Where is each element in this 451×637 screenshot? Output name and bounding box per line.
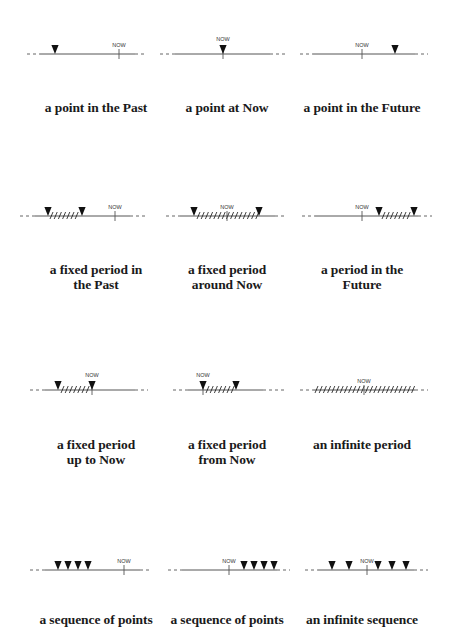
caption-line: from Now [152,452,302,467]
point-marker-icon [240,561,247,570]
timeline-sequence-past: NOW [30,558,152,575]
now-label: NOW [222,558,236,564]
timeline-period-future: NOW [302,204,432,221]
caption-line: a fixed period [21,437,171,452]
caption-line: a point in the Past [21,100,171,115]
point-marker-icon [64,561,71,570]
point-marker-icon [74,561,81,570]
timeline-diagram-grid: NOWNOWNOWNOWNOWNOWNOWNOWNOWNOWNOWNOW [0,0,451,637]
point-marker-icon [54,561,61,570]
now-label: NOW [357,378,371,384]
timeline-point-future: NOW [300,42,428,59]
now-label: NOW [112,42,126,48]
now-label: NOW [216,36,230,42]
caption-sequence-past: a sequence of points [21,612,171,627]
timeline-infinite-sequence: NOW [305,558,428,575]
timeline-period-from-now: NOW [173,372,287,395]
caption-point-now: a point at Now [152,100,302,115]
now-label: NOW [196,372,210,378]
point-marker-icon [190,207,197,216]
caption-period-around-now: a fixed periodaround Now [152,262,302,292]
timeline-point-past: NOW [27,42,147,59]
timeline-period-up-to-now: NOW [30,372,148,395]
caption-line: a sequence of points [21,612,171,627]
point-marker-icon [84,561,91,570]
now-label: NOW [220,204,234,210]
timeline-point-now: NOW [160,36,285,59]
point-marker-icon [250,561,257,570]
caption-line: Future [287,277,437,292]
caption-period-past: a fixed period inthe Past [21,262,171,292]
caption-infinite-period: an infinite period [287,437,437,452]
point-marker-icon [391,45,398,54]
caption-line: around Now [152,277,302,292]
point-marker-icon [51,45,58,54]
point-marker-icon [199,381,206,390]
point-marker-icon [345,561,352,570]
caption-point-past: a point in the Past [21,100,171,115]
point-marker-icon [410,207,417,216]
now-label: NOW [108,204,122,210]
caption-line: a point in the Future [287,100,437,115]
caption-line: a point at Now [152,100,302,115]
point-marker-icon [260,561,267,570]
now-label: NOW [355,42,369,48]
timeline-period-past: NOW [20,204,145,221]
point-marker-icon [78,207,85,216]
point-marker-icon [44,207,51,216]
point-marker-icon [54,381,61,390]
caption-period-up-to-now: a fixed periodup to Now [21,437,171,467]
caption-period-from-now: a fixed periodfrom Now [152,437,302,467]
caption-line: an infinite sequence [287,612,437,627]
point-marker-icon [328,561,335,570]
timeline-infinite-period: NOW [300,378,428,395]
point-marker-icon [375,207,382,216]
caption-line: a fixed period [152,262,302,277]
caption-line: a fixed period in [21,262,171,277]
point-marker-icon [402,561,409,570]
now-label: NOW [360,558,374,564]
caption-point-future: a point in the Future [287,100,437,115]
caption-period-future: a period in theFuture [287,262,437,292]
caption-line: the Past [21,277,171,292]
point-marker-icon [88,381,95,390]
caption-line: a sequence of points [152,612,302,627]
now-label: NOW [85,372,99,378]
timeline-sequence-future: NOW [168,558,290,575]
caption-line: an infinite period [287,437,437,452]
point-marker-icon [374,561,381,570]
now-label: NOW [117,558,131,564]
point-marker-icon [388,561,395,570]
point-marker-icon [270,561,277,570]
now-label: NOW [355,204,369,210]
caption-line: a period in the [287,262,437,277]
caption-line: up to Now [21,452,171,467]
caption-sequence-future: a sequence of points [152,612,302,627]
point-marker-icon [219,45,226,54]
caption-line: a fixed period [152,437,302,452]
caption-infinite-sequence: an infinite sequence [287,612,437,627]
timeline-period-around-now: NOW [166,204,287,221]
point-marker-icon [255,207,262,216]
